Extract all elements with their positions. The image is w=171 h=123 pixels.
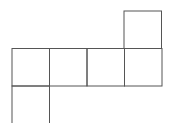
- cube-net-diagram: [0, 0, 171, 123]
- face-row-2: [50, 49, 88, 87]
- face-top-right: [124, 11, 162, 49]
- face-bottom-left: [12, 86, 50, 123]
- face-row-4: [125, 49, 163, 87]
- face-row-3: [87, 49, 125, 87]
- face-row-1: [12, 49, 50, 87]
